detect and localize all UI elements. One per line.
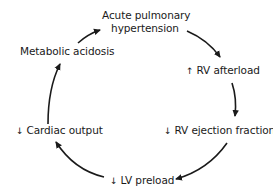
node-label: LV preload: [120, 174, 174, 186]
node-label-line2: hypertension: [102, 22, 188, 35]
node-cardiac-output: ↓Cardiac output: [16, 124, 103, 138]
up-arrow-icon: ↑: [186, 66, 193, 76]
arrow-rv-afterload-to-rv-ejection: [232, 83, 236, 116]
arrow-cardiac-output-to-metabolic-acidosis: [48, 64, 60, 124]
node-rv-ejection-fraction: ↓RV ejection fraction: [164, 124, 273, 138]
node-acute-pulmonary-hypertension: Acute pulmonary hypertension: [102, 9, 188, 35]
node-metabolic-acidosis: Metabolic acidosis: [20, 45, 114, 58]
arrow-metabolic-acidosis-to-hypertension: [78, 30, 100, 43]
node-label: Metabolic acidosis: [20, 45, 114, 57]
arrow-lv-preload-to-cardiac-output: [56, 142, 104, 177]
arrow-rv-ejection-to-lv-preload: [176, 143, 227, 179]
node-label: RV ejection fraction: [174, 124, 273, 136]
down-arrow-icon: ↓: [164, 126, 171, 136]
cycle-diagram: Acute pulmonary hypertension ↑RV afterlo…: [0, 0, 273, 196]
down-arrow-icon: ↓: [16, 126, 23, 136]
node-label: RV afterload: [196, 64, 259, 76]
node-label-line1: Acute pulmonary: [102, 9, 188, 22]
node-label: Cardiac output: [26, 124, 102, 136]
down-arrow-icon: ↓: [110, 176, 117, 186]
arrow-hypertension-to-rv-afterload: [187, 31, 220, 57]
node-lv-preload: ↓LV preload: [110, 174, 174, 188]
node-rv-afterload: ↑RV afterload: [186, 64, 260, 78]
